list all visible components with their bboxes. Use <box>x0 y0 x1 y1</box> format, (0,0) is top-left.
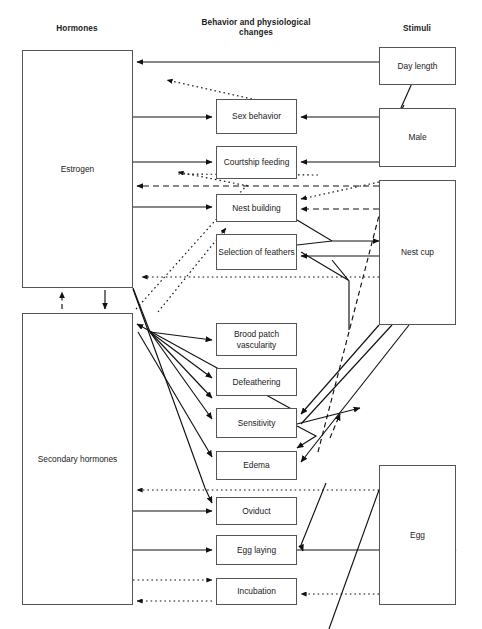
node-male[interactable]: Male <box>379 108 456 167</box>
edge-nestcup-sensitivity <box>301 325 379 414</box>
node-brood-patch-vascularity[interactable]: Brood patch vascularity <box>216 323 297 356</box>
node-label: Courtship feeding <box>224 157 290 168</box>
node-label: Nest cup <box>401 247 434 258</box>
edge-nestcup-edema <box>301 325 409 462</box>
node-label: Brood patch vascularity <box>217 329 296 350</box>
node-nest-building[interactable]: Nest building <box>216 194 297 222</box>
node-label: Egg laying <box>237 545 276 556</box>
node-label: Day length <box>397 61 437 72</box>
node-label: Male <box>408 132 426 143</box>
node-label: Edema <box>243 460 270 471</box>
edge-egg-diagonal-lower <box>329 490 379 629</box>
node-label: Incubation <box>237 586 276 597</box>
edge-dashed-diagonal-arrow <box>330 414 340 438</box>
edge-secondary-sensitivity-b <box>150 332 212 419</box>
edge-nestbuilding-nestcup <box>297 220 379 241</box>
node-sex-behavior[interactable]: Sex behavior <box>216 99 297 134</box>
node-label: Secondary hormones <box>38 454 118 465</box>
node-incubation[interactable]: Incubation <box>216 578 297 605</box>
edge-sex-estrogen <box>167 80 252 99</box>
edge-nestcup-sensitivity-b <box>301 325 392 424</box>
edge-feathers-nestcup-stem <box>332 260 349 330</box>
node-label: Estrogen <box>61 164 95 175</box>
node-label: Oviduct <box>242 506 270 517</box>
node-label: Sensitivity <box>238 418 276 429</box>
node-edema[interactable]: Edema <box>216 451 297 480</box>
edge-secondary-oviduct-diag <box>133 289 212 503</box>
node-sensitivity[interactable]: Sensitivity <box>216 408 297 438</box>
node-defeathering[interactable]: Defeathering <box>216 368 297 396</box>
edge-nestcup-nestbuilding-dotted <box>301 182 379 199</box>
edge-dashed-diagonal-long <box>318 196 384 452</box>
node-egg-laying[interactable]: Egg laying <box>216 535 297 565</box>
node-label: Nest building <box>232 203 280 214</box>
node-estrogen[interactable]: Estrogen <box>22 50 133 288</box>
node-courtship-feeding[interactable]: Courtship feeding <box>216 146 297 179</box>
node-day-length[interactable]: Day length <box>379 47 456 85</box>
node-label: Defeathering <box>233 377 281 388</box>
edge-feathers-nestcup <box>297 241 332 245</box>
edge-secondary-sensitivity <box>150 332 212 398</box>
node-egg[interactable]: Egg <box>379 465 456 605</box>
diagram-canvas: Hormones Behavior and physiological chan… <box>0 0 482 629</box>
node-label: Egg <box>410 530 425 541</box>
node-oviduct[interactable]: Oviduct <box>216 497 297 525</box>
node-secondary-hormones[interactable]: Secondary hormones <box>22 313 133 605</box>
edge-sensitivity-edema-loop <box>297 426 316 448</box>
node-label: Selection of feathers <box>218 247 294 258</box>
node-label: Sex behavior <box>232 111 281 122</box>
node-nest-cup[interactable]: Nest cup <box>379 180 456 325</box>
edge-into-egglaying-diag <box>301 483 326 551</box>
node-selection-of-feathers[interactable]: Selection of feathers <box>216 234 297 270</box>
